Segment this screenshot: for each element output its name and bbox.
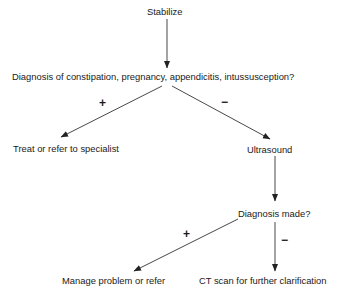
edge-diagnosis-to-treat	[61, 86, 162, 137]
edge-label-negative: −	[221, 96, 228, 108]
node-initial-diagnosis: Diagnosis of constipation, pregnancy, ap…	[12, 72, 294, 81]
node-diagnosis-made: Diagnosis made?	[238, 209, 310, 218]
node-manage-refer: Manage problem or refer	[62, 276, 165, 285]
edge-label-positive: +	[99, 97, 106, 109]
edge-label-positive-2: +	[183, 228, 190, 240]
edge-diagnosis-to-ultrasound	[172, 86, 270, 139]
node-stabilize: Stabilize	[147, 7, 182, 16]
node-ct-scan: CT scan for further clarification	[199, 276, 326, 285]
node-treat-refer: Treat or refer to specialist	[13, 144, 119, 153]
node-ultrasound: Ultrasound	[247, 145, 292, 154]
edge-label-negative-2: −	[281, 234, 288, 246]
